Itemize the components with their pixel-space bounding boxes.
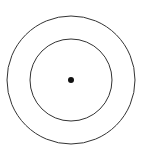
center-dot [68, 77, 74, 83]
concentric-circles-diagram [0, 0, 145, 152]
